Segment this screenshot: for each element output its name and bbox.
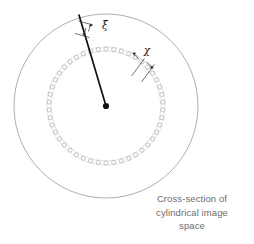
- detector-element: [53, 78, 57, 82]
- detector-element: [81, 52, 85, 56]
- detector-element: [104, 47, 108, 51]
- detector-element: [48, 92, 52, 96]
- detector-element: [68, 148, 72, 152]
- xi-tick-lower: [75, 34, 90, 38]
- xi-radial-spacing-annotation: ξ: [75, 19, 109, 38]
- detector-element: [161, 100, 165, 104]
- detector-element: [74, 153, 78, 157]
- detector-element: [140, 148, 144, 152]
- detector-element: [146, 143, 150, 147]
- detector-element: [150, 137, 154, 141]
- detector-element: [134, 153, 138, 157]
- detector-element: [53, 130, 57, 134]
- detector-element: [127, 52, 131, 56]
- detector-element: [50, 85, 54, 89]
- center-point-dot: [103, 103, 109, 109]
- xi-symbol-label: ξ: [102, 19, 109, 31]
- caption-line-1: Cross-section of: [134, 192, 250, 206]
- detector-element: [57, 137, 61, 141]
- detector-element: [104, 161, 108, 165]
- detector-element: [96, 160, 100, 164]
- caption-line-3: space: [134, 219, 250, 233]
- detector-element: [47, 108, 51, 112]
- detector-element: [89, 159, 93, 163]
- detector-element: [62, 143, 66, 147]
- detector-element: [57, 71, 61, 75]
- detector-element: [155, 130, 159, 134]
- chi-symbol-label: χ: [143, 44, 151, 56]
- detector-element: [119, 49, 123, 53]
- detector-element: [119, 159, 123, 163]
- detector-element: [127, 156, 131, 160]
- detector-element: [74, 55, 78, 59]
- figure-root: ξ χ Cross-section of cylindrical image s…: [0, 0, 254, 244]
- detector-element: [112, 47, 116, 51]
- detector-element: [68, 60, 72, 64]
- chi-angular-spacing-annotation: χ: [132, 44, 155, 82]
- detector-element: [155, 78, 159, 82]
- detector-element: [96, 47, 100, 51]
- figure-caption: Cross-section of cylindrical image space: [134, 192, 250, 233]
- detector-element: [160, 92, 164, 96]
- detector-element: [81, 156, 85, 160]
- detector-element: [47, 100, 51, 104]
- detector-element: [161, 108, 165, 112]
- detector-element: [62, 65, 66, 69]
- detector-element: [146, 65, 150, 69]
- detector-element: [150, 71, 154, 75]
- detector-element: [160, 116, 164, 120]
- detector-element: [158, 123, 162, 127]
- detector-element: [112, 160, 116, 164]
- caption-line-2: cylindrical image: [134, 206, 250, 220]
- detector-element: [50, 123, 54, 127]
- detector-element: [158, 85, 162, 89]
- detector-element: [48, 116, 52, 120]
